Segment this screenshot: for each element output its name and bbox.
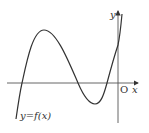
function-curve bbox=[16, 14, 122, 119]
y-axis-label: y bbox=[109, 9, 116, 20]
x-axis-label: x bbox=[132, 84, 138, 95]
curve-label: y=f(x) bbox=[19, 110, 51, 121]
origin-label: O bbox=[120, 84, 128, 95]
graph-canvas: y O x y=f(x) bbox=[0, 0, 149, 133]
